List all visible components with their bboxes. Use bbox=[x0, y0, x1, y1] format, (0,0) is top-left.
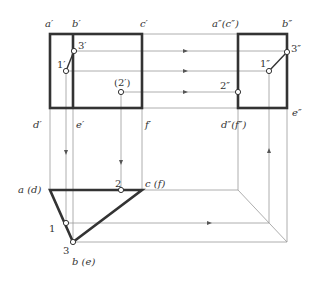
label-a-c-double-prime: a″(c″) bbox=[212, 18, 239, 29]
points bbox=[63, 48, 289, 244]
arrow-right-icon bbox=[183, 49, 188, 53]
label-d-prime: d′ bbox=[33, 119, 42, 130]
label-point-1-top: 1 bbox=[49, 223, 55, 234]
label-c-prime: c′ bbox=[140, 18, 149, 29]
arrow-down-icon bbox=[64, 150, 68, 155]
arrow-right-icon bbox=[183, 90, 188, 94]
point-2-front bbox=[118, 89, 123, 94]
label-d-f-double-prime: d″(f″) bbox=[221, 119, 246, 130]
top-view bbox=[50, 190, 142, 242]
label-a-prime: a′ bbox=[45, 18, 54, 29]
label-b-e: b (e) bbox=[72, 256, 95, 267]
label-e-double-prime: e″ bbox=[292, 107, 302, 118]
arrow-right-icon bbox=[183, 69, 188, 73]
label-point-3-front: 3′ bbox=[78, 40, 87, 51]
diagram-svg: a′ b′ c′ d′ e′ f′ 3′ 1′ (2′) a″(c″) b″ d… bbox=[0, 0, 317, 283]
label-point-1-side: 1″ bbox=[260, 58, 270, 69]
arrow-up-icon bbox=[267, 148, 271, 153]
label-b-double-prime: b″ bbox=[282, 18, 292, 29]
point-3-side bbox=[284, 49, 289, 54]
construction-lines bbox=[50, 34, 287, 242]
label-point-2-top: 2 bbox=[115, 178, 121, 189]
point-2-side bbox=[235, 89, 240, 94]
label-point-2-side: 2″ bbox=[220, 80, 230, 91]
top-view-labels: a (d) c (f) b (e) 2 1 3 bbox=[18, 178, 165, 267]
label-a-d: a (d) bbox=[18, 184, 41, 195]
label-point-3-side: 3″ bbox=[291, 43, 301, 54]
point-3-front bbox=[71, 48, 76, 53]
label-b-prime: b′ bbox=[72, 18, 81, 29]
arrows bbox=[64, 49, 271, 225]
projection-diagram: a′ b′ c′ d′ e′ f′ 3′ 1′ (2′) a″(c″) b″ d… bbox=[0, 0, 317, 283]
point-1-top bbox=[63, 220, 68, 225]
point-1-side bbox=[266, 68, 271, 73]
label-e-prime: e′ bbox=[76, 119, 85, 130]
label-point-2-front: (2′) bbox=[114, 77, 131, 88]
arrow-right-icon bbox=[207, 221, 212, 225]
label-point-1-front: 1′ bbox=[57, 59, 66, 70]
arrow-down-icon bbox=[119, 160, 123, 165]
point-3-top bbox=[70, 239, 75, 244]
label-point-3-top: 3 bbox=[63, 245, 69, 256]
label-f-prime: f′ bbox=[144, 119, 152, 130]
label-c-f: c (f) bbox=[145, 178, 165, 189]
